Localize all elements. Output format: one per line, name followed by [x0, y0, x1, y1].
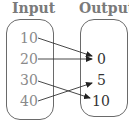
arrow-30-to-10	[38, 81, 90, 98]
mapping-arrows	[0, 0, 129, 124]
arrow-40-to-5	[38, 83, 92, 101]
arrow-10-to-0	[38, 38, 92, 56]
